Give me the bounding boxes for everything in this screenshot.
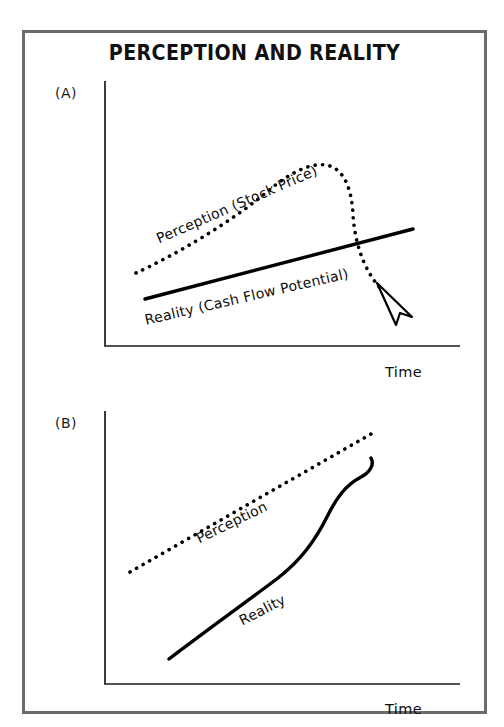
- page-title: PERCEPTION AND REALITY: [41, 41, 468, 65]
- panel-a-axes: [105, 81, 460, 346]
- panel-b-reality-label: Reality: [236, 591, 288, 628]
- panel-a-xaxis-label: Time: [385, 364, 422, 380]
- panel-a-arrowhead: [377, 283, 412, 325]
- panel-b-perception-label: Perception: [193, 498, 269, 546]
- panel-b-axes: [105, 411, 460, 684]
- panel-a-chart: [105, 81, 460, 346]
- panel-b-reality-curve: [169, 458, 372, 659]
- panel-a-label: (A): [55, 85, 77, 101]
- panel-b-xaxis-label: Time: [385, 701, 422, 717]
- figure-frame: PERCEPTION AND REALITY (A) (B) Perceptio…: [22, 30, 487, 714]
- panel-b-label: (B): [55, 415, 77, 431]
- panel-b-chart: [105, 411, 460, 684]
- panel-a-reality-label: Reality (Cash Flow Potential): [143, 265, 350, 328]
- panel-a-perception-label: Perception (Stock Price): [154, 162, 320, 246]
